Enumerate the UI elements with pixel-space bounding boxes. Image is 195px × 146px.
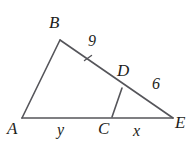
segment-cd — [112, 88, 122, 117]
vertex-label-b: B — [49, 14, 59, 31]
vertex-label-d: D — [117, 62, 129, 79]
segment-ab — [22, 40, 60, 118]
measure-label-ac: y — [57, 122, 64, 138]
vertex-label-a: A — [7, 120, 17, 137]
geometry-figure: B D A C E 9 6 y x — [0, 0, 195, 146]
measure-label-de: 6 — [152, 76, 160, 92]
measure-label-ce: x — [133, 123, 140, 139]
vertex-label-c: C — [98, 120, 109, 137]
measure-label-bd: 9 — [88, 33, 96, 49]
vertex-label-e: E — [175, 114, 185, 131]
